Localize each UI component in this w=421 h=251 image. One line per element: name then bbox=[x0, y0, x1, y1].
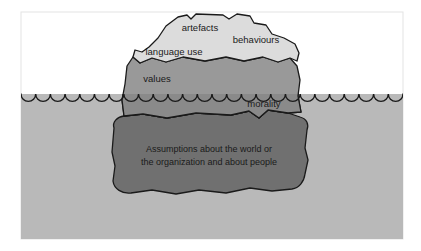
label-assumptions-line-2: the organization and about people bbox=[141, 157, 277, 167]
label-artefacts: artefacts bbox=[182, 22, 219, 33]
iceberg-svg: artefacts behaviours language use values… bbox=[0, 0, 421, 251]
label-assumptions-line-1: Assumptions about the world or bbox=[146, 144, 272, 154]
iceberg-figure: artefacts behaviours language use values… bbox=[0, 0, 421, 251]
label-behaviours: behaviours bbox=[233, 34, 280, 45]
label-language-use: language use bbox=[145, 46, 202, 57]
label-morality: morality bbox=[247, 98, 281, 109]
label-values: values bbox=[143, 73, 171, 84]
